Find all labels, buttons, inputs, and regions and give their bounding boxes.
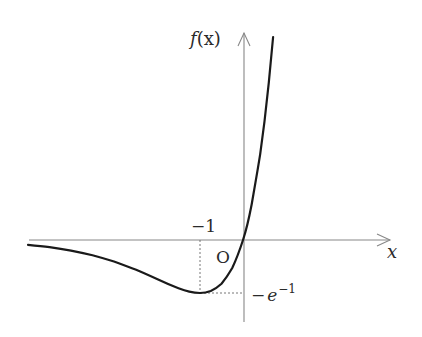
- x-axis-label: x: [387, 241, 397, 262]
- graph-svg: f(x) x O −1 −e−1: [0, 0, 422, 337]
- function-curve: [28, 37, 273, 293]
- function-graph-figure: f(x) x O −1 −e−1: [0, 0, 422, 337]
- minimum-value-label: −e−1: [251, 282, 296, 305]
- function-label: f(x): [188, 28, 221, 49]
- y-axis: [238, 33, 250, 322]
- x-tick-label-minus-one: −1: [191, 216, 216, 236]
- origin-label: O: [216, 247, 230, 267]
